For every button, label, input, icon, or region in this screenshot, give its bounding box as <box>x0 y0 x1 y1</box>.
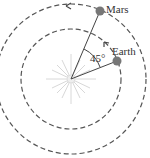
mars-label: Mars <box>106 3 129 15</box>
sun-mars-line <box>71 11 100 79</box>
earth-label: Earth <box>112 45 136 57</box>
orbit-diagram: Mars Earth 45° <box>0 0 150 158</box>
angle-label: 45° <box>90 52 105 64</box>
mars-planet-icon <box>96 7 105 16</box>
earth-planet-icon <box>113 57 122 66</box>
